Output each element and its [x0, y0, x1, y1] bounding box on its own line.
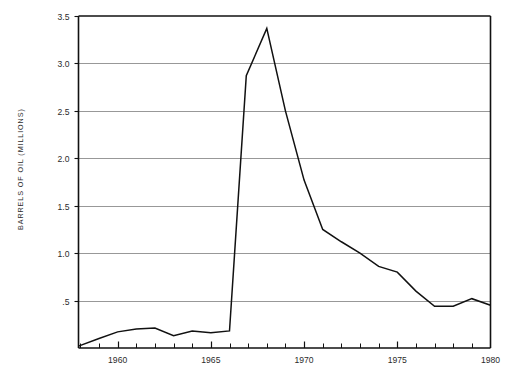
chart-figure: 19601965197019751980 3.53.02.52.01.51.0.…: [0, 0, 514, 379]
x-tick-label: 1965: [201, 355, 220, 365]
y-tick-label: 2.5: [58, 107, 70, 117]
x-tick-label: 1975: [388, 355, 407, 365]
y-axis-title-group: BARRELS OF OIL (MILLIONS): [16, 108, 25, 230]
x-tick-label: 1970: [295, 355, 314, 365]
y-tick-label: 1.5: [58, 202, 70, 212]
x-tick-label: 1960: [108, 355, 127, 365]
y-tick-label: .5: [62, 297, 69, 307]
x-tick-label: 1980: [481, 355, 500, 365]
y-tick-label: 1.0: [58, 249, 70, 259]
y-axis-title: BARRELS OF OIL (MILLIONS): [16, 108, 25, 230]
y-tick-label: 2.0: [58, 154, 70, 164]
y-tick-label: 3.0: [58, 59, 70, 69]
oil-production-line-chart: 19601965197019751980 3.53.02.52.01.51.0.…: [0, 0, 514, 379]
chart-background: [0, 0, 514, 379]
y-tick-label: 3.5: [58, 12, 70, 22]
